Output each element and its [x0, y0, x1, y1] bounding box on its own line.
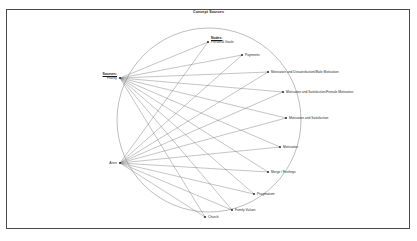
- graph-edge: [120, 55, 242, 78]
- node-label-personal-goals: Personal Goals: [211, 40, 234, 44]
- graph-edge: [120, 78, 268, 172]
- graph-edge: [120, 92, 283, 163]
- node-label-franky: Franky: [107, 76, 117, 80]
- graph-circle-outline: [117, 28, 301, 212]
- graph-node-marker[interactable]: [231, 209, 233, 211]
- node-label-payments: Payments: [245, 53, 260, 57]
- node-label-motivation: Motivation: [283, 145, 298, 149]
- graph-edge: [120, 72, 268, 78]
- node-label-church: Church: [208, 215, 219, 219]
- graph-node-marker[interactable]: [204, 216, 206, 218]
- edge-layer: [120, 42, 286, 217]
- graph-edge: [120, 78, 254, 194]
- node-label-family-values: Family Values: [235, 208, 255, 212]
- graph-node-marker[interactable]: [241, 54, 243, 56]
- graph-node-marker[interactable]: [119, 77, 121, 79]
- graph-edge: [120, 163, 268, 172]
- graph-node-marker[interactable]: [119, 162, 121, 164]
- graph-edge: [120, 163, 254, 194]
- node-label-merge-feelings: Merge / Feelings: [271, 170, 296, 174]
- graph-edge: [120, 118, 286, 163]
- node-label-mot-dissat-male: Motivation and Dissatisfaction/Male Moti…: [271, 70, 339, 74]
- graph-node-marker[interactable]: [267, 71, 269, 73]
- nodes-group-heading: Nodes:: [211, 36, 223, 40]
- graph-node-marker[interactable]: [207, 41, 209, 43]
- graph-edge: [120, 72, 268, 163]
- node-label-pragmatism: Pragmatism: [257, 192, 275, 196]
- sources-group-heading: Sources:: [102, 72, 117, 76]
- network-graph: [0, 0, 417, 241]
- node-label-mot-and-sat: Motivation and Satisfaction: [289, 116, 328, 120]
- graph-edge: [120, 78, 283, 92]
- graph-edge: [120, 163, 232, 210]
- graph-node-marker[interactable]: [285, 117, 287, 119]
- graph-edge: [120, 78, 280, 147]
- graph-edge: [120, 55, 242, 163]
- graph-node-marker[interactable]: [282, 91, 284, 93]
- graph-edge: [120, 147, 280, 163]
- figure-page: Concept Sources Sources: Nodes: FrankyAn…: [0, 0, 417, 241]
- node-label-mot-sat-female: Motivation and Satisfaction/Female Motiv…: [286, 90, 353, 94]
- node-label-anne: Anne: [109, 161, 117, 165]
- graph-node-marker[interactable]: [253, 193, 255, 195]
- graph-node-marker[interactable]: [267, 171, 269, 173]
- graph-edge: [120, 78, 232, 210]
- graph-node-marker[interactable]: [279, 146, 281, 148]
